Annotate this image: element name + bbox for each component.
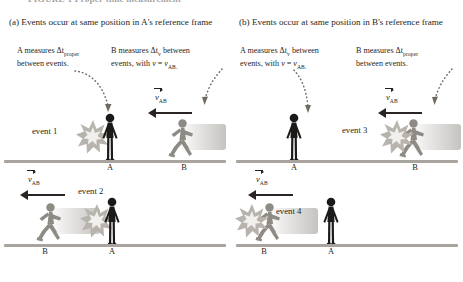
panel-a-note-left-pre: A measures Δt bbox=[17, 46, 64, 55]
panel-a-row-2-velocity-label: vAB bbox=[28, 174, 40, 186]
panel-a-row-2-velocity-arrow bbox=[20, 190, 65, 200]
panel-a-row-1-person-a bbox=[101, 113, 119, 161]
panel-b-row-2: vAB bbox=[232, 178, 463, 248]
panel-a-row-2-person-b bbox=[30, 202, 64, 244]
velocity-vector-subscript: AB bbox=[260, 180, 268, 186]
panel-b-row-2-label-b: B bbox=[256, 247, 272, 256]
panel-b-row-1-event-label: event 3 bbox=[342, 125, 367, 135]
panel-b-row-1-label-a: A bbox=[286, 163, 302, 172]
panel-b-note-left-sub2: AB. bbox=[297, 63, 306, 69]
panel-b-note-right: B measures Δtproper between events. bbox=[356, 46, 452, 69]
panel-b-row-1-person-a bbox=[285, 113, 303, 161]
panel-a-row-1-velocity-arrow bbox=[148, 108, 192, 118]
panel-a-note-right-sub: v bbox=[158, 51, 161, 57]
panel-b-note-right-sub: proper bbox=[403, 51, 418, 57]
panel-a-note-left: A measures Δtproper between events. bbox=[17, 46, 105, 69]
panel-a-note-left-post: between events. bbox=[17, 59, 69, 68]
panel-a-row-1-event-label: event 1 bbox=[32, 126, 57, 136]
panel-b-row-1-velocity-label: vAB bbox=[386, 92, 398, 104]
panel-a-row-2-label-a: A bbox=[104, 247, 120, 256]
panel-b-header: (b) Events occur at same position in B's… bbox=[239, 17, 447, 28]
panel-b-row-1-label-b: B bbox=[407, 163, 423, 172]
panel-b-note-left-sub: v bbox=[287, 51, 290, 57]
panel-b-row-2-person-a bbox=[322, 197, 340, 245]
panel-a-note-left-sub: proper bbox=[64, 51, 79, 57]
panel-a-row-1-label-a: A bbox=[102, 163, 118, 172]
panel-a-row-1-person-b bbox=[162, 118, 196, 160]
velocity-vector-symbol: v bbox=[28, 174, 32, 184]
panel-a-row-1-velocity-label: vAB bbox=[155, 92, 167, 104]
panel-b-row-2-event-burst bbox=[235, 204, 269, 242]
panel-a-note-right-pre: B measures Δt bbox=[111, 46, 158, 55]
velocity-vector-symbol: v bbox=[155, 92, 159, 102]
panel-a-row-1: vAB bbox=[0, 96, 232, 166]
panel-b-row-1: vAB bbox=[232, 96, 463, 166]
figure-root: FIGURE 1 Proper time measurement (a) Eve… bbox=[0, 0, 463, 282]
panel-b-row-1-event-burst bbox=[380, 120, 414, 158]
panel-b-note-left: A measures Δtv between events, with v = … bbox=[240, 46, 332, 72]
panel-a-row-1-label-b: B bbox=[176, 163, 192, 172]
figure-running-head: FIGURE 1 Proper time measurement bbox=[28, 0, 448, 6]
panel-a-row-2-person-a bbox=[103, 197, 121, 245]
panel-b-row-2-velocity-label: vAB bbox=[256, 174, 268, 186]
panel-b-note-right-pre: B measures Δt bbox=[356, 46, 403, 55]
velocity-vector-symbol: v bbox=[386, 92, 390, 102]
panel-b-row-1-velocity-arrow bbox=[378, 108, 422, 118]
panel-a-row-2: vAB bbox=[0, 178, 232, 248]
panel-a-header: (a) Events occur at same position in A's… bbox=[9, 17, 217, 28]
velocity-vector-symbol: v bbox=[256, 174, 260, 184]
panel-a-row-2-label-b: B bbox=[37, 247, 53, 256]
panel-b-row-2-label-a: A bbox=[323, 247, 339, 256]
panel-a-row-2-event-label: event 2 bbox=[78, 186, 103, 196]
panel-b-row-2-velocity-arrow bbox=[248, 190, 293, 200]
panel-a-note-right-sub2: AB. bbox=[168, 63, 177, 69]
panel-b-row-1-ground bbox=[236, 160, 458, 163]
velocity-vector-subscript: AB bbox=[159, 98, 167, 104]
velocity-vector-subscript: AB bbox=[390, 98, 398, 104]
panel-b-note-right-post: between events. bbox=[356, 59, 408, 68]
velocity-vector-subscript: AB bbox=[32, 180, 40, 186]
panel-b-note-left-pre: A measures Δt bbox=[240, 46, 287, 55]
panel-a-note-right: B measures Δtv between events, with v = … bbox=[111, 46, 211, 72]
panel-b-row-2-event-label: event 4 bbox=[276, 206, 301, 216]
